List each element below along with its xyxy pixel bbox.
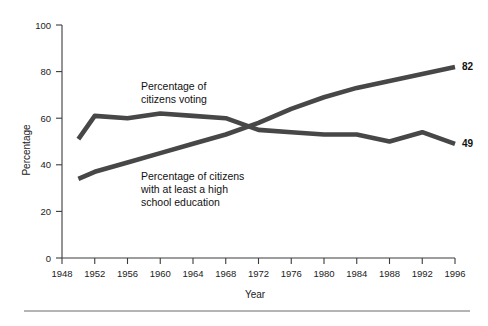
annotation-voting-line1: Percentage of bbox=[141, 80, 206, 92]
x-tick-label: 1968 bbox=[215, 268, 236, 279]
x-tick-label: 1972 bbox=[248, 268, 269, 279]
end-value-label-voting: 49 bbox=[462, 138, 474, 149]
y-tick-label: 60 bbox=[40, 113, 51, 124]
x-tick-label: 1952 bbox=[84, 268, 105, 279]
annotation-education-line3: school education bbox=[141, 196, 220, 208]
x-tick-label: 1948 bbox=[51, 268, 72, 279]
y-tick-label: 40 bbox=[40, 159, 51, 170]
x-tick-label: 1984 bbox=[346, 268, 367, 279]
chart-figure: 100 80 60 40 20 0 1948 1952 1 bbox=[0, 0, 488, 326]
x-axis-title: Year bbox=[245, 289, 266, 300]
x-tick-label: 1988 bbox=[379, 268, 400, 279]
annotation-education-line2: with at least a high bbox=[140, 183, 228, 195]
y-tick-label: 100 bbox=[35, 20, 51, 31]
x-tick-label: 1996 bbox=[444, 268, 465, 279]
x-tick-label: 1980 bbox=[313, 268, 334, 279]
x-axis-ticks bbox=[62, 258, 455, 264]
y-tick-label: 80 bbox=[40, 66, 51, 77]
y-tick-label: 0 bbox=[46, 253, 51, 264]
x-tick-label: 1964 bbox=[182, 268, 203, 279]
annotation-voting: Percentage of citizens voting bbox=[141, 80, 207, 105]
y-tick-label: 20 bbox=[40, 206, 51, 217]
end-value-label-education: 82 bbox=[462, 61, 474, 72]
annotation-voting-line2: citizens voting bbox=[141, 93, 207, 105]
x-tick-label: 1976 bbox=[281, 268, 302, 279]
y-axis-ticks bbox=[56, 25, 62, 258]
y-axis-title: Percentage bbox=[21, 124, 32, 176]
x-tick-label: 1960 bbox=[150, 268, 171, 279]
annotation-education: Percentage of citizens with at least a h… bbox=[140, 170, 244, 208]
x-tick-label: 1992 bbox=[412, 268, 433, 279]
x-tick-label: 1956 bbox=[117, 268, 138, 279]
y-axis-tick-labels: 100 80 60 40 20 0 bbox=[35, 20, 51, 264]
annotation-education-line1: Percentage of citizens bbox=[141, 170, 244, 182]
x-axis-tick-labels: 1948 1952 1956 1960 1964 1968 1972 1976 … bbox=[51, 268, 465, 279]
series-line-education bbox=[78, 67, 455, 179]
line-chart: 100 80 60 40 20 0 1948 1952 1 bbox=[0, 0, 488, 326]
